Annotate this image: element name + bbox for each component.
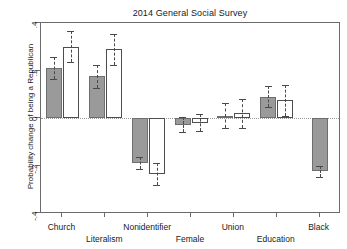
plot-area bbox=[40, 22, 340, 212]
error-bar-line bbox=[71, 31, 72, 62]
error-bar-cap-lower bbox=[222, 128, 229, 129]
x-axis-label-union: Union bbox=[222, 222, 244, 232]
error-bar-line bbox=[285, 85, 286, 116]
error-bar-cap-upper bbox=[67, 31, 74, 32]
error-bar-line bbox=[200, 114, 201, 131]
y-axis-tick-label: .4 bbox=[30, 22, 39, 44]
error-bar-cap-upper bbox=[179, 117, 186, 118]
error-bar-line bbox=[183, 117, 184, 132]
error-bar-line bbox=[157, 163, 158, 184]
x-axis-label-literalism: Literalism bbox=[86, 234, 122, 244]
x-axis-line bbox=[40, 212, 340, 213]
error-bar-cap-lower bbox=[316, 177, 323, 178]
error-bar-line bbox=[54, 57, 55, 78]
error-bar-cap-upper bbox=[153, 163, 160, 164]
y-axis-tick-label: -.2 bbox=[30, 164, 39, 186]
error-bar-line bbox=[268, 86, 269, 107]
error-bar-cap-upper bbox=[136, 157, 143, 158]
error-bar-cap-upper bbox=[50, 57, 57, 58]
error-bar-cap-lower bbox=[239, 128, 246, 129]
error-bar-cap-lower bbox=[282, 116, 289, 117]
error-bar-cap-lower bbox=[179, 132, 186, 133]
error-bar-cap-lower bbox=[67, 62, 74, 63]
chart-figure: 2014 General Social Survey Probability c… bbox=[0, 0, 347, 249]
chart-title: 2014 General Social Survey bbox=[40, 8, 340, 18]
error-bar-cap-upper bbox=[222, 103, 229, 104]
x-axis-label-black: Black bbox=[308, 222, 329, 232]
error-bar-cap-upper bbox=[265, 86, 272, 87]
x-axis-label-nonidentifier: Nonidentifier bbox=[123, 222, 171, 232]
error-bar-cap-lower bbox=[153, 185, 160, 186]
error-bar-cap-lower bbox=[110, 65, 117, 66]
x-axis-label-female: Female bbox=[176, 234, 204, 244]
error-bar-cap-upper bbox=[110, 34, 117, 35]
y-axis-tick-label: -.4 bbox=[30, 212, 39, 234]
plot-inner bbox=[41, 23, 339, 212]
x-axis-label-education: Education bbox=[257, 234, 295, 244]
error-bar-cap-upper bbox=[196, 114, 203, 115]
error-bar-line bbox=[140, 157, 141, 169]
error-bar-cap-upper bbox=[316, 166, 323, 167]
error-bar-cap-lower bbox=[93, 88, 100, 89]
error-bar-cap-lower bbox=[265, 107, 272, 108]
error-bar-cap-lower bbox=[136, 169, 143, 170]
error-bar-cap-upper bbox=[93, 65, 100, 66]
error-bar-cap-upper bbox=[282, 85, 289, 86]
x-axis-label-church: Church bbox=[48, 222, 75, 232]
y-axis-tick-label: 0 bbox=[30, 117, 39, 139]
error-bar-cap-upper bbox=[239, 99, 246, 100]
error-bar-line bbox=[242, 99, 243, 128]
error-bar-line bbox=[97, 65, 98, 89]
error-bar-line bbox=[225, 103, 226, 128]
bar-black-filled-gray bbox=[312, 118, 328, 171]
error-bar-line bbox=[320, 166, 321, 178]
y-axis-tick-label: .2 bbox=[30, 69, 39, 91]
error-bar-line bbox=[114, 34, 115, 65]
error-bar-cap-lower bbox=[196, 131, 203, 132]
error-bar-cap-lower bbox=[50, 79, 57, 80]
